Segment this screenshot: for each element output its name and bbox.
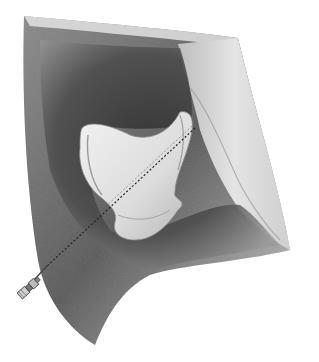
- illustration-canvas: [0, 0, 319, 362]
- needle-hub: [17, 276, 42, 299]
- anatomy-illustration: [0, 0, 319, 362]
